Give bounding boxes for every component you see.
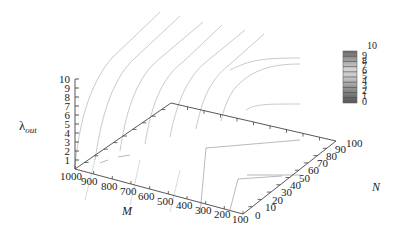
m-tick-500: 500 [157,195,174,207]
n-tick-0: 0 [255,209,261,221]
m-axis-label: M [121,204,133,218]
m-tick-800: 800 [101,180,118,192]
n-tick-labels: 0 10 20 30 40 50 60 70 80 90 100 [255,137,363,221]
m-tick-700: 700 [120,185,137,197]
m-tick-300: 300 [195,204,212,216]
z-axis [75,79,79,169]
base-plane [75,103,336,214]
back-right-edge-ticks [188,107,320,141]
z-tick-10: 10 [59,73,71,85]
z-axis-label: λout [19,118,37,135]
m-tick-200: 200 [214,208,231,220]
m-tick-labels: 1000 900 800 700 600 500 400 300 200 100 [60,170,249,225]
colorbar-labels: 10 9 8 7 6 5 4 3 2 1 0 [362,40,377,107]
m-tick-400: 400 [176,199,193,211]
cb-tick-10: 10 [367,40,377,51]
colorbar: 10 9 8 7 6 5 4 3 2 1 0 [343,40,377,107]
m-tick-600: 600 [138,190,155,202]
z-tick-labels: 1 2 3 4 5 6 7 8 9 10 [59,73,71,166]
n-tick-100: 100 [346,137,363,149]
surface-plot: 1 2 3 4 5 6 7 8 9 10 λout 1000 900 800 7… [0,0,396,239]
surface-mesh [75,12,300,168]
m-tick-1000: 1000 [60,170,83,182]
m-tick-900: 900 [81,175,98,187]
n-tick-90: 90 [335,143,347,155]
m-tick-100: 100 [232,213,249,225]
n-axis-label: N [371,180,381,194]
cb-tick-0: 0 [362,96,367,107]
